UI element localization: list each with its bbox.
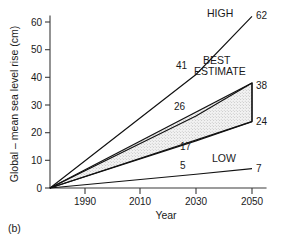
value-label-upper-2030: 26 <box>174 101 186 112</box>
value-label-high-2050: 62 <box>256 10 268 21</box>
value-label-high-2030: 41 <box>176 60 188 71</box>
figure-panel: 0 10 20 30 40 50 60 1990 2010 2030 2050 … <box>0 0 282 238</box>
y-tick-label-60: 60 <box>31 17 43 28</box>
best-estimate-band <box>50 83 252 188</box>
y-tick-label-10: 10 <box>31 155 43 166</box>
x-axis-ticks: 1990 2010 2030 2050 <box>74 188 264 207</box>
y-tick-label-20: 20 <box>31 127 43 138</box>
y-axis-ticks: 0 10 20 30 40 50 60 <box>31 17 50 194</box>
data-point-labels: 62 41 38 26 24 17 7 5 <box>174 10 268 174</box>
x-axis-title: Year <box>155 209 177 221</box>
series-label-low: LOW <box>212 152 236 164</box>
value-label-lower-2030: 17 <box>180 141 192 152</box>
series-label-high: HIGH <box>207 7 233 19</box>
value-label-lower-2050: 24 <box>256 116 268 127</box>
y-tick-label-40: 40 <box>31 72 43 83</box>
x-tick-label-2030: 2030 <box>185 196 208 207</box>
sea-level-rise-chart: 0 10 20 30 40 50 60 1990 2010 2030 2050 … <box>0 0 282 238</box>
value-label-upper-2050: 38 <box>256 80 268 91</box>
y-tick-label-50: 50 <box>31 44 43 55</box>
x-tick-label-2050: 2050 <box>241 196 264 207</box>
x-tick-label-1990: 1990 <box>74 196 97 207</box>
value-label-low-2030: 5 <box>180 160 186 171</box>
x-tick-label-2010: 2010 <box>129 196 152 207</box>
y-axis-title: Global – mean sea level rise (cm) <box>8 26 20 182</box>
y-tick-label-0: 0 <box>36 183 42 194</box>
series-label-best-estimate-line2: ESTIMATE <box>194 65 246 77</box>
y-tick-label-30: 30 <box>31 100 43 111</box>
panel-caption: (b) <box>8 222 21 234</box>
value-label-low-2050: 7 <box>256 163 262 174</box>
